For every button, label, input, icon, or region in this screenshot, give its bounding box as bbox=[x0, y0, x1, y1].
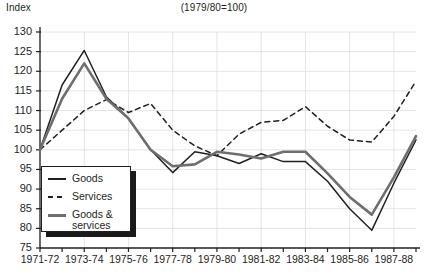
chart-legend: Goods Services Goods & services bbox=[41, 166, 131, 232]
legend-item-goods: Goods bbox=[47, 173, 103, 187]
legend-label-services: Services bbox=[72, 191, 112, 202]
legend-item-goods-and-services: Goods & services bbox=[47, 209, 113, 223]
y-tick-label: 95 bbox=[8, 162, 32, 174]
legend-label-goods-and-services: Goods & services bbox=[72, 209, 113, 231]
index-line-chart: Index (1979/80=100) 75808590951001051101… bbox=[0, 0, 428, 278]
y-tick-label: 130 bbox=[8, 25, 32, 37]
y-tick-label: 125 bbox=[8, 45, 32, 57]
series-line bbox=[40, 81, 416, 156]
y-tick-label: 105 bbox=[8, 123, 32, 135]
legend-swatch-goods-icon bbox=[47, 173, 67, 185]
legend-label-goods: Goods bbox=[72, 173, 103, 184]
y-tick-label: 100 bbox=[8, 143, 32, 155]
x-tick-label: 1987-88 bbox=[362, 253, 426, 265]
y-tick-label: 75 bbox=[8, 241, 32, 253]
legend-swatch-goods-services-icon bbox=[47, 209, 67, 221]
y-tick-label: 115 bbox=[8, 84, 32, 96]
y-tick-label: 120 bbox=[8, 64, 32, 76]
legend-item-services: Services bbox=[47, 191, 112, 205]
y-tick-label: 110 bbox=[8, 104, 32, 116]
legend-swatch-services-icon bbox=[47, 191, 67, 203]
y-tick-label: 90 bbox=[8, 182, 32, 194]
y-tick-label: 85 bbox=[8, 202, 32, 214]
y-tick-label: 80 bbox=[8, 221, 32, 233]
